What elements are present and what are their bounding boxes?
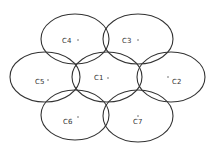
cell-label: C7 [133,118,142,126]
base-station-dot-icon [137,115,138,116]
cell-c2: C2 [137,52,205,102]
cell-boundary [41,14,109,64]
cell-boundary [72,52,142,102]
cell-boundary [103,14,173,64]
base-station-dot-icon [47,79,48,80]
base-station-dot-icon [137,39,138,40]
cell-label: C3 [122,37,131,45]
cell-boundary [137,52,205,102]
base-station-dot-icon [107,77,108,78]
cell-cluster-diagram: C1C2C3C4C5C6C7 [0,0,213,151]
cell-label: C4 [62,37,72,45]
cell-c7: C7 [103,90,173,142]
cell-c4: C4 [41,14,109,64]
cell-label: C5 [35,78,44,86]
cell-c5: C5 [10,52,80,102]
base-station-dot-icon [167,76,168,77]
cell-c3: C3 [103,14,173,64]
cell-label: C1 [94,74,103,82]
cell-boundary [41,90,109,140]
base-station-dot-icon [77,39,78,40]
cell-c6: C6 [41,90,109,140]
cell-boundary [10,52,80,102]
base-station-dot-icon [77,116,78,117]
cell-label: C2 [172,78,181,86]
cell-c1: C1 [72,52,142,102]
cell-label: C6 [63,118,73,126]
